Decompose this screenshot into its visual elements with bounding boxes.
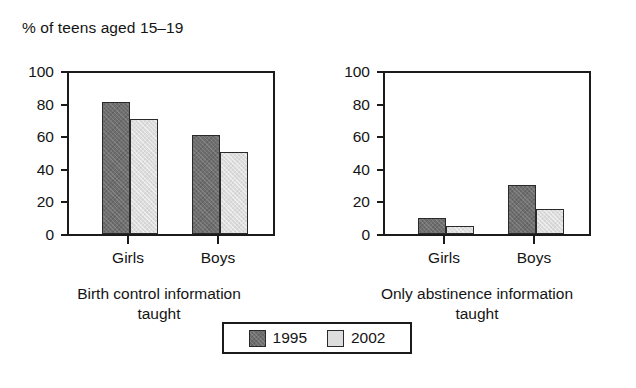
y-tick-label: 80 [353,97,370,113]
chart-panel-abstinence: 100 80 60 40 20 0 Girls Boys [318,0,636,330]
chart-legend: 1995 2002 [222,322,412,354]
plot-area-left [67,71,275,236]
bar-girls-2002 [446,226,474,234]
legend-swatch-icon-1995 [249,330,266,347]
plot-area-right [383,71,591,236]
bar-boys-2002 [536,209,564,234]
y-tick-label: 40 [37,162,54,178]
panel-caption-right: Only abstinence information taught [318,284,636,324]
bar-boys-2002 [220,152,248,235]
bar-girls-1995 [418,218,446,235]
legend-entry-2002: 2002 [327,329,385,347]
panel-caption-line-1: Birth control information [0,284,318,304]
legend-swatch-icon-2002 [327,330,344,347]
panel-caption-line-2: taught [318,304,636,324]
panel-caption-line-1: Only abstinence information [318,284,636,304]
x-tick-label-boys: Boys [517,249,551,267]
y-tick-label: 0 [45,227,54,243]
y-tick-label: 60 [353,129,370,145]
bar-girls-2002 [130,119,158,235]
chart-panel-birth-control: 100 80 60 40 20 0 Girls Boys [0,0,318,330]
y-tick-label: 40 [353,162,370,178]
y-tick-label: 20 [353,195,370,211]
bar-boys-1995 [192,135,220,234]
legend-label-1995: 1995 [273,329,307,347]
y-tick-label: 100 [344,64,370,80]
y-tick-label: 80 [37,97,54,113]
y-tick-label: 100 [28,64,54,80]
legend-entry-1995: 1995 [249,329,307,347]
x-tick-label-boys: Boys [201,249,235,267]
y-tick-label: 0 [361,227,370,243]
y-tick-label: 20 [37,195,54,211]
bar-chart-figure: % of teens aged 15–19 100 80 60 40 20 0 [0,0,636,388]
y-tick-label: 60 [37,129,54,145]
panel-caption-left: Birth control information taught [0,284,318,324]
legend-label-2002: 2002 [351,329,385,347]
bar-boys-1995 [508,185,536,235]
bar-girls-1995 [102,102,130,234]
panel-caption-line-2: taught [0,304,318,324]
x-tick-label-girls: Girls [112,249,144,267]
x-tick-label-girls: Girls [428,249,460,267]
